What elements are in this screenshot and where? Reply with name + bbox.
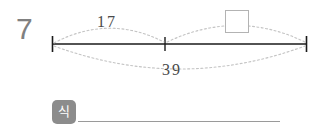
number-line-diagram — [0, 0, 323, 100]
answer-box-unknown[interactable] — [225, 10, 249, 33]
equation-tag-label: 식 — [52, 100, 76, 124]
arc-label-upper-left: 17 — [97, 14, 117, 30]
arc-label-lower-total: 39 — [162, 62, 182, 78]
equation-input[interactable] — [78, 100, 280, 122]
worksheet-problem: 7 17 39 식 — [0, 0, 323, 137]
arc-upper-left — [54, 28, 164, 43]
equation-row: 식 — [52, 100, 292, 130]
